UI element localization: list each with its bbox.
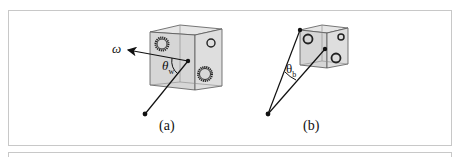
panel-a-cube	[150, 25, 222, 90]
caption-b: (b)	[303, 118, 319, 134]
caption-a: (a)	[159, 118, 175, 134]
theta-b-subscript: b	[292, 70, 296, 79]
theta-b-label: θb	[286, 61, 296, 79]
theta-w-subscript: w	[168, 67, 174, 76]
theta-w-label: θw	[162, 58, 174, 76]
omega-label: ω	[112, 41, 121, 57]
panel-b-cube	[300, 25, 348, 68]
figure-diagram	[0, 0, 461, 157]
